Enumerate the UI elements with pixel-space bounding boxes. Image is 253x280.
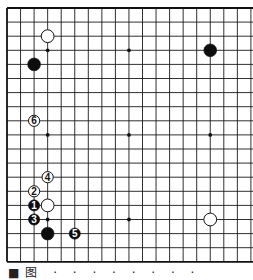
star-point (46, 218, 50, 222)
move-number-label: 6 (31, 115, 37, 126)
stone-disc (204, 44, 217, 57)
white-stone (41, 30, 54, 43)
white-stone-4: 4 (42, 172, 53, 183)
black-stone-5: 5 (69, 228, 80, 239)
stone-disc (41, 227, 54, 240)
star-point (127, 133, 131, 137)
white-stone (41, 199, 54, 212)
black-stone-1: 1 (28, 200, 39, 211)
stone-disc (41, 199, 54, 212)
black-stone-3: 3 (28, 214, 39, 225)
stone-disc (28, 58, 41, 71)
white-stone (204, 213, 217, 226)
star-point (46, 48, 50, 52)
star-point (127, 218, 131, 222)
black-stone (28, 58, 41, 71)
diagram-caption: ■图 · · · · · · · · (8, 266, 200, 280)
star-point (208, 133, 212, 137)
move-number-label: 5 (72, 228, 78, 239)
move-number-label: 4 (45, 172, 51, 183)
black-stone (204, 44, 217, 57)
stone-disc (41, 30, 54, 43)
move-number-label: 1 (31, 200, 37, 211)
white-stone-6: 6 (28, 115, 39, 126)
stone-disc (204, 213, 217, 226)
star-point (46, 133, 50, 137)
white-stone-2: 2 (28, 186, 39, 197)
star-point (127, 48, 131, 52)
move-number-label: 2 (31, 186, 37, 197)
black-stone (41, 227, 54, 240)
move-number-label: 3 (31, 214, 37, 225)
